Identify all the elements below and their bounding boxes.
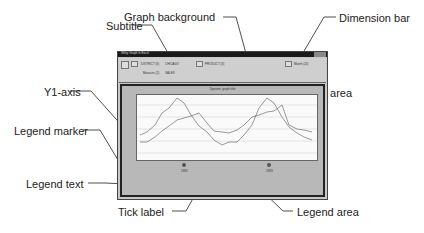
graph-subtitle: Dynamic graph title (122, 87, 323, 91)
line-series (137, 95, 317, 160)
district-icon[interactable] (131, 61, 138, 67)
product-label[interactable]: PRODUCT (3) (205, 62, 224, 66)
callout-legend-marker: Legend marker (14, 125, 88, 137)
graph-window: Wiley Graph in Excel DISTRICT (6) CHICAG… (117, 51, 328, 200)
district-value[interactable]: CHICAGO (165, 62, 179, 66)
callout-legend-text: Legend text (26, 178, 84, 190)
callout-tick-label: Tick label (118, 206, 164, 218)
title-bar: Wiley Graph in Excel (118, 52, 327, 57)
window-controls[interactable] (314, 52, 326, 57)
legend-text-1: 1992 (181, 169, 188, 173)
graph-background: Dynamic graph title 1992 1993 (120, 84, 325, 197)
window-title: Wiley Graph in Excel (121, 51, 149, 55)
plot-area (136, 94, 318, 161)
district-label[interactable]: DISTRICT (6) (141, 62, 159, 66)
callout-subtitle: Subtitle (106, 20, 143, 32)
dimension-bar: DISTRICT (6) CHICAGO Measure (2) SALES P… (119, 58, 326, 83)
legend-marker-2 (267, 163, 271, 167)
callout-legend-area: Legend area (297, 206, 359, 218)
product-icon[interactable] (196, 61, 203, 67)
month-icon[interactable] (285, 61, 292, 67)
legend-text-2: 1993 (266, 169, 273, 173)
measure-label[interactable]: Measure (2) (143, 71, 159, 75)
month-label[interactable]: Month (24) (294, 62, 309, 66)
callout-dimension-bar: Dimension bar (339, 12, 410, 24)
legend-marker-1 (182, 163, 186, 167)
measure-value[interactable]: SALES (165, 71, 175, 75)
dimension-toggle-icon[interactable] (121, 61, 129, 69)
callout-y1-axis: Y1-axis (44, 86, 81, 98)
